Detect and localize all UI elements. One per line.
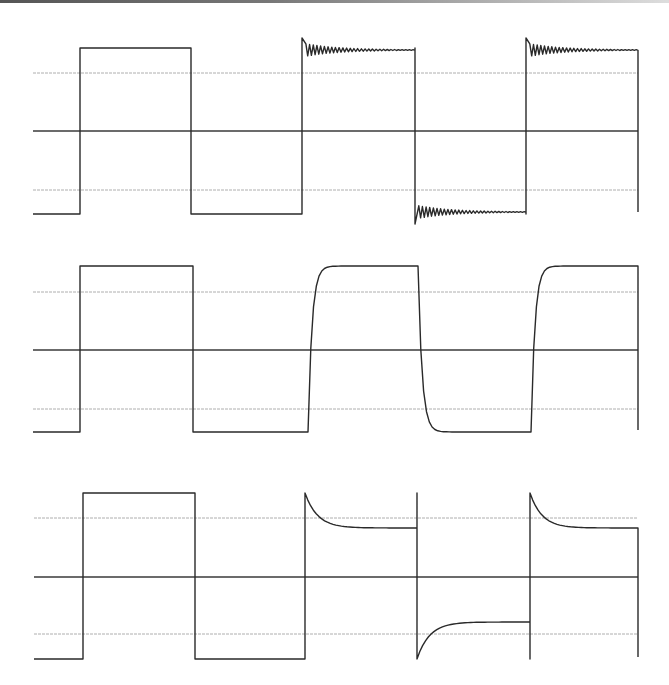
panel-overshoot-decay [34,493,638,659]
panel-ringing [33,38,638,224]
panel-slow-rise [33,266,638,432]
square-wave-trace [33,266,638,432]
waveform-figure [0,0,669,685]
